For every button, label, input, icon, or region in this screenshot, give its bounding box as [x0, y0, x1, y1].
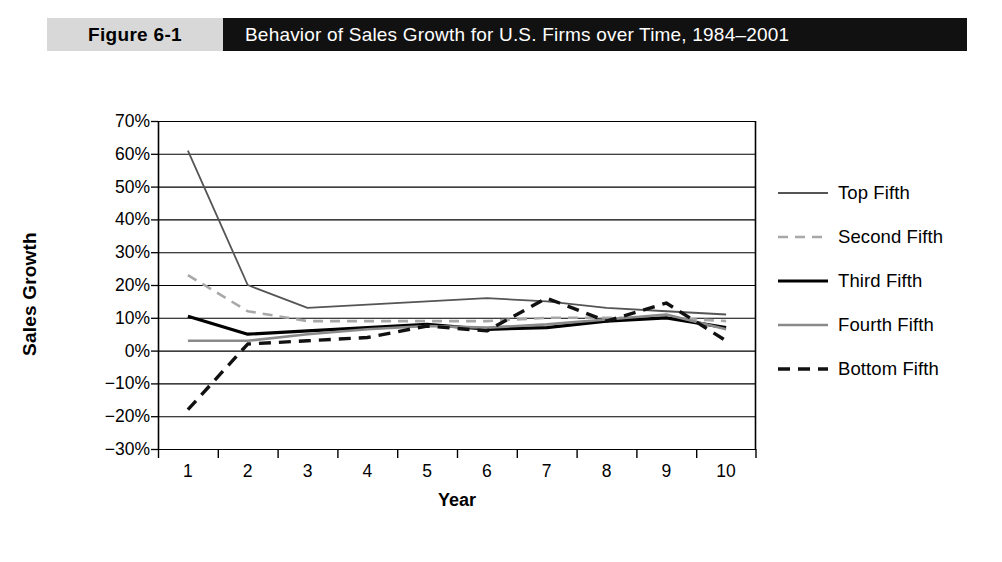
plot-series-lines — [158, 121, 756, 449]
legend-label: Second Fifth — [838, 226, 943, 248]
series-line-second-fifth — [188, 275, 726, 321]
legend-label: Fourth Fifth — [838, 314, 934, 336]
legend-label: Top Fifth — [838, 182, 910, 204]
y-tick-label: 40% — [64, 209, 150, 230]
series-line-top-fifth — [188, 151, 726, 315]
figure-header: Figure 6-1 Behavior of Sales Growth for … — [47, 18, 967, 51]
y-tick-label: −30% — [64, 439, 150, 460]
x-tick-label: 2 — [218, 461, 278, 482]
figure-number-badge: Figure 6-1 — [47, 18, 223, 51]
legend-line-swatch — [777, 186, 829, 200]
series-line-third-fifth — [188, 316, 726, 334]
x-tick-label: 4 — [337, 461, 397, 482]
legend-item-second-fifth[interactable]: Second Fifth — [777, 215, 992, 259]
y-tick-label: 0% — [64, 341, 150, 362]
x-tick-label: 5 — [397, 461, 457, 482]
y-tick-label: 50% — [64, 177, 150, 198]
y-tick-label: −20% — [64, 406, 150, 427]
x-tick-label: 6 — [457, 461, 517, 482]
chart-container: Sales Growth Year 70%60%50%40%30%20%10%0… — [0, 95, 1002, 562]
legend-item-third-fifth[interactable]: Third Fifth — [777, 259, 992, 303]
x-tick-label: 10 — [696, 461, 756, 482]
y-axis-tick-labels: 70%60%50%40%30%20%10%0%−10%−20%−30% — [62, 121, 150, 449]
x-tick-label: 9 — [636, 461, 696, 482]
x-tick-label: 7 — [517, 461, 577, 482]
y-axis-title: Sales Growth — [19, 194, 41, 394]
y-tick-label: 60% — [64, 144, 150, 165]
x-tick-label: 3 — [278, 461, 338, 482]
legend-line-swatch — [777, 274, 829, 288]
y-tick-label: 10% — [64, 308, 150, 329]
y-tick-label: −10% — [64, 373, 150, 394]
x-tick-label: 8 — [577, 461, 637, 482]
legend-label: Bottom Fifth — [838, 358, 939, 380]
figure-title: Behavior of Sales Growth for U.S. Firms … — [223, 18, 967, 51]
y-tick-label: 70% — [64, 111, 150, 132]
plot-area — [158, 121, 756, 449]
chart-legend: Top FifthSecond FifthThird FifthFourth F… — [777, 171, 992, 391]
legend-line-swatch — [777, 230, 829, 244]
legend-label: Third Fifth — [838, 270, 922, 292]
x-tick-label: 1 — [158, 461, 218, 482]
legend-line-swatch — [777, 362, 829, 376]
y-tick-label: 30% — [64, 242, 150, 263]
legend-item-top-fifth[interactable]: Top Fifth — [777, 171, 992, 215]
y-tick-label: 20% — [64, 275, 150, 296]
legend-line-swatch — [777, 318, 829, 332]
x-axis-tick-labels: 12345678910 — [158, 461, 756, 485]
x-axis-title: Year — [158, 490, 756, 511]
legend-item-fourth-fifth[interactable]: Fourth Fifth — [777, 303, 992, 347]
legend-item-bottom-fifth[interactable]: Bottom Fifth — [777, 347, 992, 391]
